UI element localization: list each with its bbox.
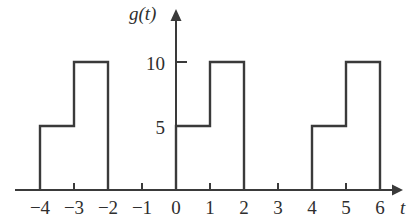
plot-area	[0, 0, 413, 224]
x-axis-arrowhead	[392, 185, 403, 196]
x-axis-tick-marks	[40, 180, 380, 190]
x-tick-label-2: 2	[239, 198, 249, 217]
y-axis-arrowhead	[171, 9, 182, 21]
y-axis-title: g(t)	[129, 4, 156, 23]
y-tick-label-5: 5	[141, 118, 165, 137]
step-function-figure: −4 −3 −2 −1 0 1 2 3 4 5 6 5 10 g(t) t	[0, 0, 413, 224]
x-tick-label-1: 1	[205, 198, 215, 217]
x-tick-label-0: 0	[171, 198, 181, 217]
x-tick-label--2: −2	[98, 198, 118, 217]
step-function-curve	[40, 62, 380, 190]
x-tick-label-4: 4	[307, 198, 317, 217]
x-tick-label-3: 3	[273, 198, 283, 217]
x-axis-title: t	[400, 198, 405, 217]
pulse-right	[312, 62, 380, 190]
pulse-center	[176, 62, 244, 190]
x-tick-label--1: −1	[132, 198, 152, 217]
x-tick-label--4: −4	[30, 198, 50, 217]
y-tick-label-10: 10	[131, 54, 165, 73]
x-tick-label--3: −3	[64, 198, 84, 217]
x-tick-label-5: 5	[341, 198, 351, 217]
pulse-left	[40, 62, 108, 190]
x-tick-label-6: 6	[375, 198, 385, 217]
